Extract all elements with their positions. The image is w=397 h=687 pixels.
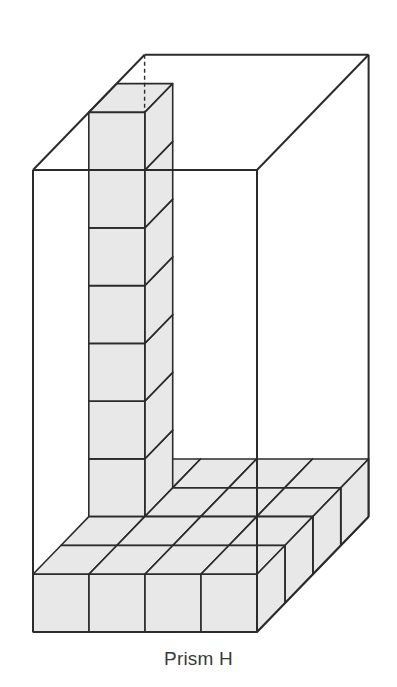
unit-cubes: [33, 84, 369, 632]
cube-front-face: [89, 112, 145, 170]
prism-edge: [257, 55, 369, 170]
cube-front-face: [89, 574, 145, 632]
prism-diagram: [0, 0, 397, 687]
cube-front-face: [89, 459, 145, 517]
figure-caption: Prism H: [0, 648, 397, 670]
cube-front-face: [89, 343, 145, 401]
cube-front-face: [201, 574, 257, 632]
cube-front-face: [33, 574, 89, 632]
cube-front-face: [89, 170, 145, 228]
cube-front-face: [89, 286, 145, 344]
cube-front-face: [89, 228, 145, 286]
cube-front-face: [145, 574, 201, 632]
cube-front-face: [89, 401, 145, 459]
